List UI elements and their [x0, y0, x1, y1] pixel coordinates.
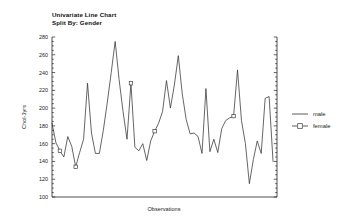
y-tick-label: 120	[39, 176, 48, 182]
y-tick-label: 220	[39, 87, 48, 93]
chart-legend: male female	[292, 111, 330, 129]
y-tick-label: 240	[39, 70, 48, 76]
y-axis-title: Chol-3yrs	[21, 105, 27, 129]
y-axis-right-ticks	[274, 37, 277, 197]
y-axis-labels: 100120140160180200220240260280	[39, 34, 48, 200]
data-point-female	[153, 130, 156, 133]
y-tick-label: 180	[39, 123, 48, 129]
y-tick-label: 280	[39, 34, 48, 40]
line-chart-plot: 100120140160180200220240260280 Chol-3yrs…	[0, 0, 353, 222]
legend-female-marker-icon	[298, 124, 303, 129]
data-line-male	[52, 41, 273, 183]
data-point-female	[74, 165, 77, 168]
y-tick-label: 160	[39, 141, 48, 147]
x-axis-title: Observations	[148, 206, 181, 212]
y-tick-label: 200	[39, 105, 48, 111]
y-tick-label: 100	[39, 194, 48, 200]
data-point-female	[232, 114, 235, 117]
chart-container: Univariate Line Chart Split By: Gender 1…	[0, 0, 353, 222]
y-tick-label: 260	[39, 52, 48, 58]
legend-female-label: female	[313, 123, 330, 129]
y-axis-left-ticks	[52, 37, 55, 197]
data-point-female	[58, 149, 61, 152]
legend-male-label: male	[313, 111, 326, 117]
y-tick-label: 140	[39, 158, 48, 164]
data-point-female	[129, 82, 132, 85]
